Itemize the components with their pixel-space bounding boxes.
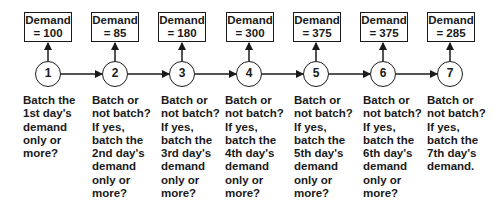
demand-box-day-1: Demand = 100 <box>24 12 72 42</box>
demand-value: = 300 <box>227 27 273 40</box>
decision-text-day-3: Batch or not batch? If yes, batch the 3r… <box>161 94 225 200</box>
decision-text-day-5: Batch or not batch? If yes, batch the 5t… <box>294 94 358 200</box>
decision-text-day-6: Batch or not batch? If yes, batch the 6t… <box>363 94 427 200</box>
demand-value: = 375 <box>294 27 340 40</box>
demand-label: Demand <box>227 14 273 27</box>
demand-value: = 285 <box>428 27 474 40</box>
decision-text-day-7: Batch or not batch? If yes, batch the 7t… <box>427 94 491 174</box>
demand-box-day-3: Demand = 180 <box>158 12 206 42</box>
demand-label: Demand <box>92 14 138 27</box>
demand-label: Demand <box>159 14 205 27</box>
demand-label: Demand <box>294 14 340 27</box>
demand-label: Demand <box>25 14 71 27</box>
day-node-6: 6 <box>370 61 396 87</box>
day-node-2: 2 <box>102 61 128 87</box>
batching-decision-diagram: Demand = 100 1 Batch the 1st day's deman… <box>0 0 499 210</box>
demand-box-day-7: Demand = 285 <box>427 12 475 42</box>
demand-box-day-4: Demand = 300 <box>226 12 274 42</box>
demand-value: = 100 <box>25 27 71 40</box>
day-node-1: 1 <box>35 61 61 87</box>
day-node-7: 7 <box>437 61 463 87</box>
day-node-5: 5 <box>303 61 329 87</box>
decision-text-day-2: Batch or not batch? If yes, batch the 2n… <box>92 94 156 200</box>
demand-value: = 180 <box>159 27 205 40</box>
demand-value: = 85 <box>92 27 138 40</box>
demand-box-day-2: Demand = 85 <box>91 12 139 42</box>
demand-box-day-6: Demand = 375 <box>360 12 408 42</box>
demand-label: Demand <box>428 14 474 27</box>
demand-box-day-5: Demand = 375 <box>293 12 341 42</box>
decision-text-day-4: Batch or not batch? If yes, batch the 4t… <box>225 94 289 200</box>
decision-text-day-1: Batch the 1st day's demand only or more? <box>23 94 87 160</box>
day-node-4: 4 <box>236 61 262 87</box>
day-node-3: 3 <box>169 61 195 87</box>
demand-value: = 375 <box>361 27 407 40</box>
demand-label: Demand <box>361 14 407 27</box>
